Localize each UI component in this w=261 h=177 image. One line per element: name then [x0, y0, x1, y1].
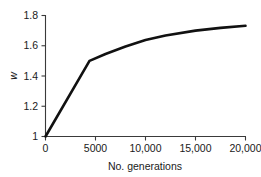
y-tick-label-5: 1.8	[23, 9, 38, 21]
series-line-mean-fitness	[46, 26, 246, 137]
x-axis-title: No. generations	[108, 160, 182, 172]
x-tick-label-3: 10,000	[129, 142, 161, 154]
x-tick-label-2: 5000	[84, 142, 108, 154]
y-axis-tickmarks	[42, 16, 46, 137]
y-tick-label-3: 1.4	[23, 70, 38, 82]
y-tick-label-4: 1.6	[23, 39, 38, 51]
chart-figure: 1 1.2 1.4 1.6 1.8 0 5000 10,000 15,000 2…	[0, 0, 261, 177]
x-tick-label-1: 0	[43, 142, 49, 154]
y-axis-title: w	[7, 71, 19, 80]
x-tick-label-4: 15,000	[179, 142, 211, 154]
y-tick-label-1: 1	[32, 130, 38, 142]
y-tick-label-2: 1.2	[23, 100, 38, 112]
x-tick-label-5: 20,000	[229, 142, 261, 154]
line-chart-plot: 1 1.2 1.4 1.6 1.8 0 5000 10,000 15,000 2…	[0, 0, 261, 177]
x-axis-tickmarks	[46, 137, 246, 141]
